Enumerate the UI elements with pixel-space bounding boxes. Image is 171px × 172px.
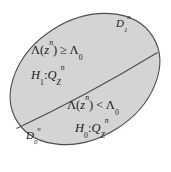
sample-space-ellipse bbox=[0, 0, 171, 171]
upper-test-relation: ≥ bbox=[60, 43, 67, 57]
region-label-d0-subscript: 0 bbox=[34, 138, 37, 145]
region-label-d1-subscript: 1 bbox=[124, 26, 127, 33]
upper-hypothesis-index: 1 bbox=[40, 78, 44, 87]
region-label-d0: D0n bbox=[26, 130, 41, 141]
upper-hypothesis-h: H bbox=[31, 68, 40, 82]
upper-likelihood-test: Λ(zn) ≥ Λ0 bbox=[31, 44, 83, 57]
upper-hypothesis: H1:QZn bbox=[31, 69, 65, 82]
region-label-d1-superscript: n bbox=[127, 13, 130, 20]
figure-canvas bbox=[0, 0, 171, 172]
region-label-d1-base: D bbox=[116, 17, 124, 29]
upper-test-threshold-subscript: 0 bbox=[79, 53, 83, 62]
lower-test-lambda: Λ bbox=[67, 98, 76, 112]
upper-hypothesis-q-superscript: n bbox=[61, 63, 65, 72]
upper-test-threshold: Λ bbox=[70, 43, 79, 57]
upper-test-paren-close: ) bbox=[53, 43, 57, 57]
upper-test-argument-superscript: n bbox=[49, 38, 53, 47]
lower-test-threshold-subscript: 0 bbox=[115, 108, 119, 117]
upper-test-lambda: Λ bbox=[31, 43, 40, 57]
lower-hypothesis-q-subscript: Z bbox=[100, 131, 104, 140]
region-label-d1: D1n bbox=[116, 18, 131, 29]
upper-hypothesis-q-subscript: Z bbox=[56, 78, 60, 87]
lower-hypothesis-index: 0 bbox=[84, 131, 88, 140]
lower-test-paren-close: ) bbox=[89, 98, 93, 112]
lower-hypothesis-q-superscript: n bbox=[105, 116, 109, 125]
lower-test-argument-superscript: n bbox=[85, 93, 89, 102]
lower-test-threshold: Λ bbox=[106, 98, 115, 112]
decision-region-figure: D1n Λ(zn) ≥ Λ0 H1:QZn Λ(zn) < Λ0 H0:QZn … bbox=[0, 0, 171, 172]
lower-hypothesis: H0:QZn bbox=[75, 122, 109, 135]
lower-hypothesis-h: H bbox=[75, 121, 84, 135]
lower-likelihood-test: Λ(zn) < Λ0 bbox=[67, 99, 119, 112]
region-label-d0-base: D bbox=[26, 129, 34, 141]
region-label-d0-superscript: n bbox=[37, 125, 40, 132]
lower-test-relation: < bbox=[96, 98, 103, 112]
